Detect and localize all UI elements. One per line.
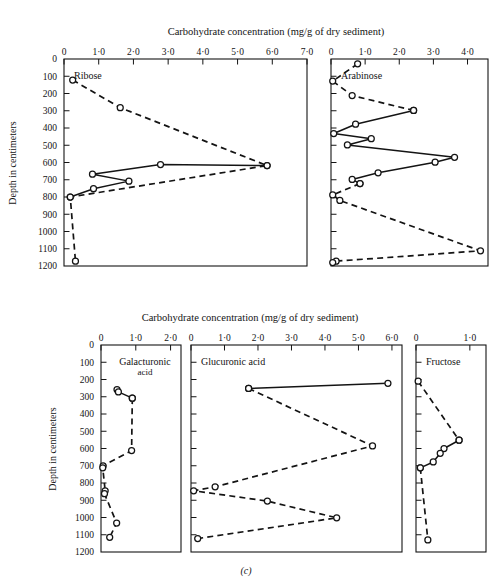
data-point-bottom-center-solid-1 [385, 380, 391, 386]
data-point-bottom-left-solid-1 [115, 389, 121, 395]
xtick-label-top-left-4: 4·0 [197, 47, 210, 57]
ylabel-top: Depth in centimeters [7, 121, 18, 204]
data-point-bottom-right-dashed-lower-0 [417, 465, 423, 471]
data-point-top-left-solid-1 [158, 162, 164, 168]
panel-top-left: 01·02·03·04·05·06·07·0010020030040050060… [38, 47, 314, 271]
data-point-top-left-solid-4 [91, 186, 97, 192]
panel-top-right: 01·02·03·04·0Arabinose [329, 47, 488, 266]
data-point-bottom-left-dashed-6 [114, 520, 120, 526]
ytick-label-top-left-4: 400 [43, 123, 58, 133]
series-line-bottom-right-dashed-lower [420, 468, 428, 540]
ytick-label-bottom-left-5: 500 [80, 427, 95, 437]
data-point-top-left-solid-2 [89, 171, 95, 177]
series-line-bottom-left-dashed [103, 398, 133, 537]
data-point-top-right-dashed-lower-5 [330, 260, 336, 266]
figure-svg: 01·02·03·04·05·06·07·0010020030040050060… [0, 0, 493, 584]
xtick-label-bottom-right-1: 1·0 [464, 333, 477, 343]
axis-title-bottom: Carbohydrate concentration (mg/g of dry … [142, 312, 359, 324]
xtick-label-top-left-0: 0 [62, 47, 67, 57]
data-point-bottom-center-dashed-0 [246, 385, 252, 391]
data-point-bottom-center-dashed-6 [195, 536, 201, 542]
ylabel-bottom: Depth in centimeters [47, 407, 58, 490]
ytick-label-top-left-0: 0 [52, 54, 57, 64]
ytick-label-top-left-11: 1100 [38, 244, 57, 254]
data-point-bottom-center-dashed-2 [212, 484, 218, 490]
ytick-label-bottom-left-7: 700 [80, 461, 95, 471]
xtick-label-top-right-2: 2·0 [393, 47, 406, 57]
xtick-label-top-left-5: 5·0 [231, 47, 244, 57]
series-line-bottom-right-dashed-upper [418, 381, 459, 440]
series-line-top-left-dashed [70, 80, 267, 261]
panel-title-bottom-center: Glucuronic acid [201, 356, 265, 367]
data-point-top-left-solid-0 [264, 163, 270, 169]
series-line-top-right-dashed-lower [333, 184, 481, 263]
series-line-top-right-solid [334, 110, 455, 183]
ytick-label-bottom-left-3: 300 [80, 392, 95, 402]
series-line-bottom-center-solid [249, 383, 388, 388]
xtick-label-top-right-0: 0 [329, 47, 334, 57]
panel-title-bottom-left: Galacturonic [119, 356, 171, 367]
xtick-label-bottom-center-6: 6·0 [386, 333, 399, 343]
data-point-bottom-right-dashed-upper-0 [415, 378, 421, 384]
xtick-label-top-right-4: 4·0 [461, 47, 474, 57]
data-point-bottom-center-dashed-3 [191, 488, 197, 494]
panel-bottom-right: 01·0Fructose [414, 333, 486, 552]
xtick-label-bottom-center-2: 2·0 [252, 333, 265, 343]
xtick-label-top-left-3: 3·0 [162, 47, 175, 57]
ytick-label-bottom-left-1: 100 [80, 358, 95, 368]
panel-bottom-center: 01·02·03·04·05·06·0Glucuronic acid [189, 333, 402, 552]
data-point-bottom-right-solid-0 [456, 437, 462, 443]
ytick-label-top-left-8: 800 [43, 192, 58, 202]
xtick-label-bottom-center-0: 0 [189, 333, 194, 343]
data-point-bottom-center-dashed-1 [370, 443, 376, 449]
data-point-bottom-left-dashed-1 [129, 448, 135, 454]
xtick-label-bottom-center-5: 5·0 [352, 333, 365, 343]
ytick-label-top-left-7: 700 [43, 175, 58, 185]
xtick-label-bottom-left-1: 1·0 [129, 333, 142, 343]
ytick-label-bottom-left-10: 1000 [75, 513, 94, 523]
data-point-bottom-left-dashed-3 [100, 465, 106, 471]
data-point-top-left-dashed-1 [117, 105, 123, 111]
data-point-top-right-solid-0 [411, 107, 417, 113]
data-point-bottom-right-solid-3 [430, 459, 436, 465]
data-point-bottom-left-dashed-7 [107, 534, 113, 540]
ytick-label-top-left-1: 100 [43, 72, 58, 82]
ytick-label-top-left-6: 600 [43, 158, 58, 168]
data-point-top-right-dashed-lower-2 [337, 197, 343, 203]
carbohydrate-depth-figure: 01·02·03·04·05·06·07·0010020030040050060… [0, 0, 493, 584]
xtick-label-bottom-center-1: 1·0 [218, 333, 231, 343]
data-point-top-right-solid-2 [331, 131, 337, 137]
data-point-top-right-dashed-upper-2 [349, 93, 355, 99]
ytick-label-bottom-left-2: 200 [80, 375, 95, 385]
xtick-label-bottom-right-0: 0 [414, 333, 419, 343]
data-point-top-right-solid-6 [432, 159, 438, 165]
ytick-label-bottom-left-4: 400 [80, 409, 95, 419]
panel-bottom-left: 01·02·0010020030040050060070080090010001… [75, 333, 181, 557]
ytick-label-bottom-left-6: 600 [80, 444, 95, 454]
ytick-label-bottom-left-8: 800 [80, 478, 95, 488]
panel-subtitle-bottom-left: acid [138, 367, 153, 377]
ytick-label-bottom-left-11: 1100 [75, 530, 94, 540]
xtick-label-top-left-2: 2·0 [127, 47, 140, 57]
panel-title-top-right: Arabinose [341, 70, 383, 81]
figure-caption-label: (c) [240, 565, 252, 577]
data-point-top-right-dashed-lower-1 [330, 192, 336, 198]
ytick-label-top-left-5: 500 [43, 141, 58, 151]
data-point-top-right-dashed-upper-1 [330, 78, 336, 84]
xtick-label-bottom-center-3: 3·0 [285, 333, 298, 343]
plot-frame-top-right [331, 59, 488, 266]
data-point-top-right-solid-1 [353, 121, 359, 127]
ytick-label-top-left-10: 1000 [38, 227, 57, 237]
plot-frame-top-left [64, 59, 307, 266]
ytick-label-bottom-left-0: 0 [89, 340, 94, 350]
ytick-label-bottom-left-9: 900 [80, 496, 95, 506]
panel-title-bottom-right: Fructose [426, 356, 461, 367]
xtick-label-bottom-left-0: 0 [99, 333, 104, 343]
series-line-bottom-center-dashed [194, 388, 373, 538]
data-point-bottom-center-dashed-5 [334, 515, 340, 521]
data-point-bottom-left-dashed-5 [101, 491, 107, 497]
data-point-top-right-solid-4 [344, 142, 350, 148]
data-point-top-right-solid-8 [349, 176, 355, 182]
xtick-label-top-left-7: 7·0 [301, 47, 314, 57]
data-point-top-right-solid-5 [452, 154, 458, 160]
